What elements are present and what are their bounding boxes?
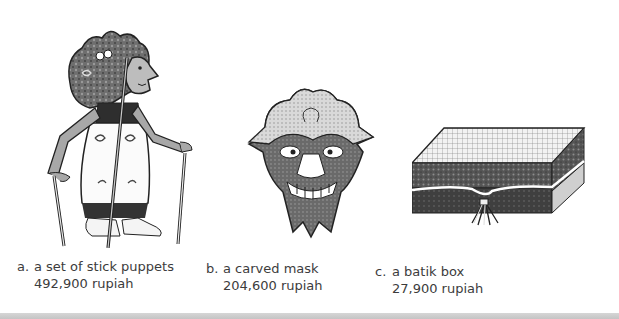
item-price: 492,900 rupiah bbox=[17, 275, 174, 292]
caption-c: c.a batik box 27,900 rupiah bbox=[375, 263, 483, 297]
item-name: a carved mask bbox=[223, 261, 319, 276]
batik-box-icon bbox=[412, 123, 592, 228]
item-name: a batik box bbox=[392, 264, 464, 279]
stick-puppet-icon bbox=[20, 8, 200, 248]
stick-puppet-illustration bbox=[20, 8, 200, 248]
carved-mask-illustration bbox=[245, 82, 377, 242]
item-letter: a. bbox=[17, 258, 34, 275]
caption-a: a.a set of stick puppets 492,900 rupiah bbox=[17, 258, 174, 292]
item-price: 204,600 rupiah bbox=[206, 277, 323, 294]
batik-box-illustration bbox=[412, 123, 592, 228]
item-price: 27,900 rupiah bbox=[375, 280, 483, 297]
item-name: a set of stick puppets bbox=[34, 259, 174, 274]
item-letter: b. bbox=[206, 260, 223, 277]
item-letter: c. bbox=[375, 263, 392, 280]
bottom-divider-band bbox=[0, 313, 619, 319]
carved-mask-icon bbox=[245, 82, 377, 242]
caption-b: b.a carved mask 204,600 rupiah bbox=[206, 260, 323, 294]
